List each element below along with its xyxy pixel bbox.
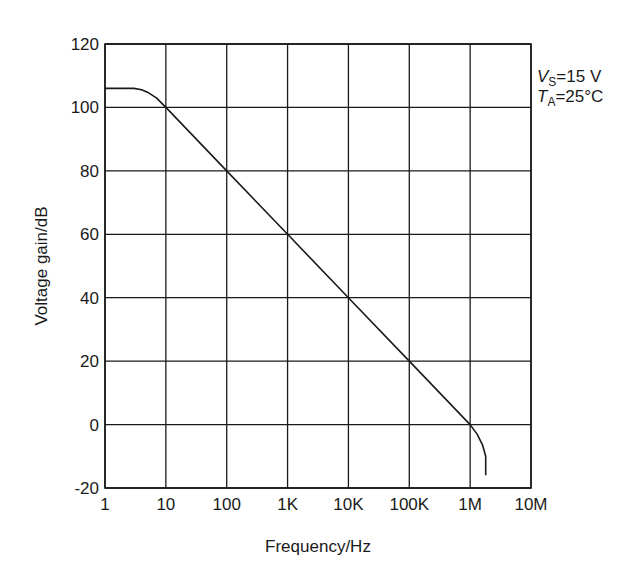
gain-frequency-chart: -20020406080100120 1101001K10K100K1M10M … <box>0 0 642 575</box>
x-tick-label: 1K <box>277 495 298 514</box>
ambient-temp-annotation: TA=25°C <box>537 87 603 109</box>
y-tick-label: -20 <box>74 479 99 498</box>
y-tick-label: 60 <box>80 225 99 244</box>
y-axis-label: Voltage gain/dB <box>32 206 51 325</box>
y-tick-label: 120 <box>71 35 99 54</box>
x-axis-label: Frequency/Hz <box>265 537 371 556</box>
x-tick-label: 1 <box>100 495 109 514</box>
x-tick-label: 10 <box>156 495 175 514</box>
y-tick-label: 20 <box>80 352 99 371</box>
x-tick-label: 100 <box>213 495 241 514</box>
x-tick-label: 10K <box>333 495 364 514</box>
y-tick-label: 0 <box>90 416 99 435</box>
supply-voltage-annotation: VS=15 V <box>537 67 602 89</box>
gain-curve <box>105 88 486 475</box>
y-tick-labels: -20020406080100120 <box>71 35 99 498</box>
x-tick-label: 100K <box>389 495 429 514</box>
y-tick-label: 40 <box>80 289 99 308</box>
y-tick-label: 80 <box>80 162 99 181</box>
x-tick-label: 1M <box>458 495 482 514</box>
conditions-annotation: VS=15 VTA=25°C <box>537 67 603 109</box>
y-tick-label: 100 <box>71 98 99 117</box>
x-tick-label: 10M <box>514 495 547 514</box>
x-tick-labels: 1101001K10K100K1M10M <box>100 495 547 514</box>
